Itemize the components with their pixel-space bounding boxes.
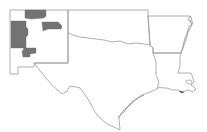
county-highlight-northeast xyxy=(42,22,62,31)
county-highlight-north xyxy=(25,10,46,19)
arkansas-river-border-detail xyxy=(181,16,192,53)
county-highlight-west xyxy=(11,21,28,48)
state-oklahoma xyxy=(68,10,150,45)
state-arkansas xyxy=(148,16,193,53)
state-texas xyxy=(34,33,159,130)
county-highlight-south xyxy=(22,48,36,57)
texas-coast-detail xyxy=(118,95,144,118)
map xyxy=(0,0,207,132)
coastal-lake xyxy=(186,80,192,84)
state-louisiana xyxy=(153,53,196,92)
